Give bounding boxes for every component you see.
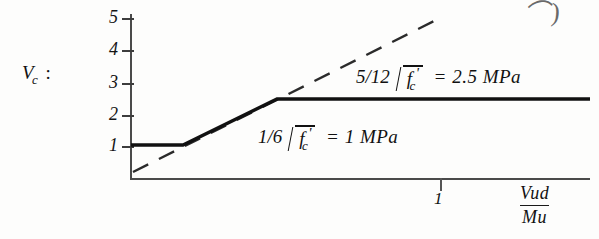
figure-canvas: ⌒) Vc: 5 4 3 2 1 1 Vud Mu 5/12fc'= 2.5 M… [0,0,599,239]
plot-lines [0,0,599,239]
annotation-upper-formula: 5/12fc'= 2.5 MPa [356,63,521,92]
upper-radical-icon: fc' [394,63,423,92]
upper-coefficient: 5/12 [356,66,390,87]
lower-equals-value: = 1 MPa [326,126,398,147]
lower-radicand-prime: ' [308,125,312,141]
upper-radicand-prime: ' [416,65,420,81]
lower-coefficient: 1/6 [258,126,282,147]
upper-equals-value: = 2.5 MPa [434,66,522,87]
lower-radical-icon: fc' [286,123,315,152]
annotation-lower-formula: 1/6fc'= 1 MPa [258,123,398,152]
